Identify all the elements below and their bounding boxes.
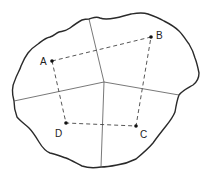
station-label-c: C [140,129,147,140]
station-point-icon [134,124,138,128]
station-label-b: B [156,30,163,41]
station-label-d: D [55,128,62,139]
station-b: B [149,30,163,41]
station-c: C [134,124,147,140]
station-point-icon [149,35,153,39]
station-point-icon [64,121,68,125]
station-point-icon [50,59,54,63]
station-a: A [40,56,54,67]
thiessen-polygon-diagram: A B C D [0,0,209,180]
station-connector-quadrilateral [52,37,151,126]
polygon-edges [14,19,179,167]
catchment-boundary [13,13,199,168]
station-d: D [55,121,68,139]
polygon-edge-right [104,82,179,95]
station-label-a: A [40,56,47,67]
